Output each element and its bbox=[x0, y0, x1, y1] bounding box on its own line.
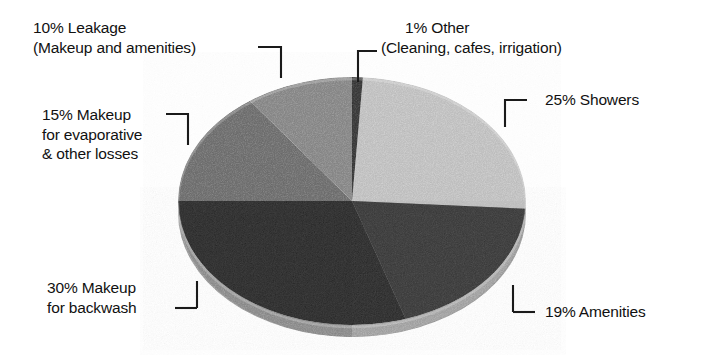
pie-chart-figure: 10% Leakage (Makeup and amenities) 15% M… bbox=[0, 0, 714, 355]
callout-label-amenities: 19% Amenities bbox=[545, 302, 646, 322]
leader-line-leakage bbox=[258, 47, 281, 78]
callout-other-line2: (Cleaning, cafes, irrigation) bbox=[381, 38, 562, 58]
callout-leakage-line1: 10% Leakage bbox=[33, 19, 126, 36]
callout-evaporative-line1: 15% Makeup bbox=[42, 106, 131, 123]
callout-label-other: 1% Other (Cleaning, cafes, irrigation) bbox=[405, 18, 562, 57]
callout-backwash-line1: 30% Makeup bbox=[47, 279, 136, 296]
leader-line-evaporative bbox=[166, 114, 188, 145]
callout-label-leakage: 10% Leakage (Makeup and amenities) bbox=[33, 18, 196, 57]
callout-amenities-line1: 19% Amenities bbox=[545, 303, 646, 320]
callout-backwash-line2: for backwash bbox=[47, 298, 137, 318]
callout-label-evaporative: 15% Makeup for evaporative & other losse… bbox=[42, 105, 142, 164]
callout-evaporative-line3: & other losses bbox=[42, 144, 142, 164]
callout-evaporative-line2: for evaporative bbox=[42, 125, 142, 145]
callout-leakage-line2: (Makeup and amenities) bbox=[33, 38, 196, 58]
callout-showers-line1: 25% Showers bbox=[545, 91, 639, 108]
callout-other-line1: 1% Other bbox=[405, 19, 469, 36]
callout-label-backwash: 30% Makeup for backwash bbox=[47, 278, 137, 317]
callout-label-showers: 25% Showers bbox=[545, 90, 639, 110]
leader-line-showers bbox=[505, 100, 527, 127]
pie-slice-showers bbox=[352, 77, 526, 209]
